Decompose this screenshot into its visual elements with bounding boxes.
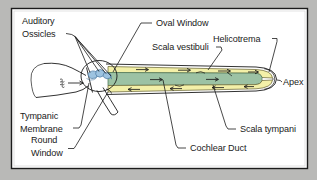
label-auditory-ossicles-line2: Ossicles (22, 29, 56, 39)
label-scala-vestibuli: Scala vestibuli (152, 42, 209, 52)
label-oval-window: Oval Window (156, 18, 209, 28)
label-scala-tympani: Scala tympani (240, 124, 296, 134)
label-tympanic-membrane-line2: Membrane (20, 124, 63, 134)
label-round-window-line1: Round (31, 135, 57, 145)
stapes-bone (103, 73, 111, 79)
cochlear-duct-fluid (108, 73, 262, 86)
label-apex: Apex (283, 77, 304, 87)
label-auditory-ossicles-line1: Auditory (22, 16, 55, 26)
label-tympanic-membrane-line1: Tympanic (20, 111, 59, 121)
label-helicotrema: Helicotrema (213, 34, 261, 44)
label-round-window-line2: Window (31, 148, 63, 158)
cochlea-diagram-figure: Auditory Ossicles Oval Window Helicotrem… (0, 0, 317, 180)
label-cochlear-duct: Cochlear Duct (190, 143, 247, 153)
